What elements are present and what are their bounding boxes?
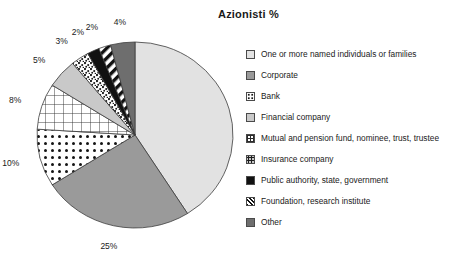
legend-item[interactable]: Other — [246, 212, 451, 233]
legend-item-label: Bank — [261, 92, 280, 100]
slice-percent-label: 2% — [72, 27, 85, 37]
pie-plot-area: 41%25%10%8%5%3%2%2%4% — [0, 14, 246, 262]
pie-svg: 41%25%10%8%5%3%2%2%4% — [0, 14, 246, 262]
legend-item-label: Other — [261, 218, 282, 226]
legend-item[interactable]: Mutual and pension fund, nominee, trust,… — [246, 128, 451, 149]
legend-item[interactable]: Public authority, state, government — [246, 170, 451, 191]
slice-percent-label: 5% — [33, 55, 46, 65]
legend-swatch-icon — [246, 176, 255, 185]
legend-item-label: Foundation, research institute — [261, 197, 370, 205]
legend-item[interactable]: Bank — [246, 86, 451, 107]
slice-percent-label: 4% — [114, 17, 127, 27]
slice-percent-label: 3% — [56, 36, 69, 46]
legend-swatch-icon — [246, 218, 255, 227]
slice-percent-label: 2% — [86, 22, 99, 32]
legend-swatch-icon — [246, 197, 255, 206]
legend-swatch-icon — [246, 134, 255, 143]
legend-swatch-icon — [246, 92, 255, 101]
legend-item-label: Financial company — [261, 113, 330, 121]
pie-slices — [37, 42, 233, 228]
legend-item[interactable]: One or more named individuals or familie… — [246, 44, 451, 65]
legend-item-label: Mutual and pension fund, nominee, trust,… — [261, 134, 439, 142]
legend-item[interactable]: Corporate — [246, 65, 451, 86]
pie-chart-figure: Azionisti % — [0, 0, 451, 262]
legend-item-label: Public authority, state, government — [261, 176, 388, 184]
legend-swatch-icon — [246, 155, 255, 164]
legend-item-label: Insurance company — [261, 155, 333, 163]
slice-percent-label: 8% — [9, 95, 22, 105]
legend-swatch-icon — [246, 71, 255, 80]
legend-item-label: One or more named individuals or familie… — [261, 50, 416, 58]
legend-item[interactable]: Foundation, research institute — [246, 191, 451, 212]
legend-swatch-icon — [246, 50, 255, 59]
legend-item-label: Corporate — [261, 71, 298, 79]
legend-item[interactable]: Financial company — [246, 107, 451, 128]
slice-percent-label: 25% — [100, 241, 117, 251]
legend-swatch-icon — [246, 113, 255, 122]
legend-item[interactable]: Insurance company — [246, 149, 451, 170]
slice-percent-label: 10% — [2, 158, 19, 168]
chart-legend: One or more named individuals or familie… — [246, 44, 451, 233]
